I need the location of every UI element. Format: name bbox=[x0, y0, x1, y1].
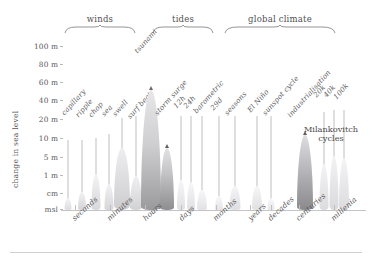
peak-barometric bbox=[196, 50, 208, 210]
peak-capillary bbox=[63, 50, 72, 210]
y-tick-label-60m: 60 m bbox=[12, 78, 58, 87]
peak-seasons bbox=[228, 50, 241, 210]
peak-24h bbox=[186, 50, 196, 210]
group-label-tides: tides bbox=[152, 14, 214, 24]
peak-29d bbox=[214, 50, 224, 210]
peak-stem bbox=[270, 116, 271, 202]
y-tick-mark bbox=[60, 46, 63, 47]
peak-storm-surge bbox=[159, 40, 175, 210]
peak-stem bbox=[257, 116, 258, 192]
peak-ripple bbox=[77, 50, 87, 210]
group-brace-winds bbox=[64, 25, 136, 34]
x-tick-mark bbox=[145, 205, 146, 210]
group-label-global-climate: global climate bbox=[224, 14, 336, 24]
annotation-line-2: cycles bbox=[292, 134, 370, 143]
x-tick-mark bbox=[250, 205, 251, 210]
peak-el-nino bbox=[251, 50, 263, 210]
peak-area bbox=[160, 148, 174, 210]
y-tick-label-40m: 40 m bbox=[12, 96, 58, 105]
x-tick-mark bbox=[181, 205, 182, 210]
annotation-milankovitch-cycles: Milankovitch cycles bbox=[292, 125, 370, 143]
peak-stem bbox=[181, 116, 182, 186]
peak-area bbox=[197, 190, 207, 210]
y-tick-label-10m: 10 m bbox=[12, 134, 58, 143]
group-brace-tides bbox=[152, 25, 214, 34]
group-brace-global-climate bbox=[224, 25, 336, 34]
y-tick-label-20m: 20 m bbox=[12, 115, 58, 124]
peak-stem bbox=[82, 140, 83, 198]
group-label-winds: winds bbox=[64, 14, 136, 24]
bottom-divider bbox=[10, 252, 362, 253]
y-tick-label-1m: 1 m bbox=[12, 171, 58, 180]
peak-area bbox=[297, 135, 313, 210]
y-tick-label-cm: cm bbox=[12, 189, 58, 198]
peak-stem bbox=[234, 116, 235, 192]
peak-area bbox=[329, 156, 338, 210]
peak-stem bbox=[219, 116, 220, 200]
y-tick-label-msl: msl bbox=[12, 205, 58, 214]
peak-12h bbox=[176, 50, 186, 210]
peak-stem bbox=[202, 116, 203, 196]
peak-stem bbox=[67, 140, 68, 202]
peak-stem bbox=[136, 116, 137, 182]
peak-area bbox=[64, 198, 71, 210]
peak-stem bbox=[191, 116, 192, 188]
x-axis-line bbox=[61, 210, 366, 211]
y-tick-label-5m: 5 m bbox=[12, 153, 58, 162]
peak-chop bbox=[90, 50, 101, 210]
peak-area bbox=[104, 184, 113, 210]
y-tick-label-100m: 100 m bbox=[12, 42, 58, 51]
peak-stem bbox=[108, 134, 109, 190]
sea-level-spectrum-chart: change in sea level 100 m 80 m 60 m 40 m… bbox=[0, 0, 374, 265]
peak-sunspot-cycle bbox=[266, 50, 275, 210]
y-tick-label-80m: 80 m bbox=[12, 60, 58, 69]
